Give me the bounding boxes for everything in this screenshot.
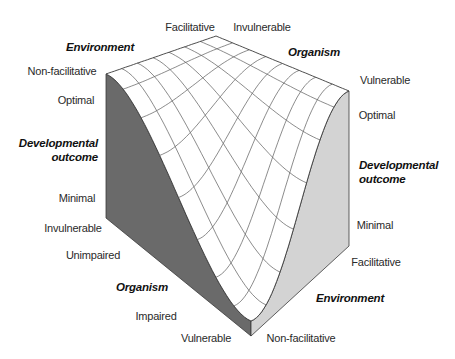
label-environment-facilitative-top: Facilitative	[165, 21, 215, 33]
axis-title-organism-bottom: Organism	[116, 281, 168, 293]
label-organism-invulnerable-top: Invulnerable	[233, 21, 291, 33]
label-organism-invulnerable-bottom: Invulnerable	[44, 222, 102, 234]
label-organism-vulnerable-top: Vulnerable	[360, 74, 410, 86]
axis-title-outcome-right-line2: outcome	[359, 172, 438, 186]
axis-title-outcome-right: Developmental outcome	[359, 158, 438, 186]
axis-title-outcome-left-line2: outcome	[19, 150, 98, 164]
axis-title-environment-bottom: Environment	[316, 292, 384, 304]
label-organism-vulnerable-bottom: Vulnerable	[181, 332, 231, 344]
axis-title-outcome-left: Developmental outcome	[19, 136, 98, 164]
label-outcome-optimal-right: Optimal	[359, 109, 396, 121]
label-organism-impaired: Impaired	[135, 310, 176, 322]
label-environment-facilitative-bottom: Facilitative	[351, 256, 401, 268]
label-environment-non-facilitative-bottom: Non-facilitative	[267, 332, 336, 344]
label-outcome-minimal-right: Minimal	[357, 219, 394, 231]
axis-title-environment-top: Environment	[66, 41, 134, 53]
axis-title-outcome-left-line1: Developmental	[19, 136, 98, 150]
label-outcome-optimal-left: Optimal	[58, 94, 95, 106]
label-environment-non-facilitative-top: Non-facilitative	[28, 65, 97, 77]
label-organism-unimpaired: Unimpaired	[66, 249, 120, 261]
axis-title-organism-top: Organism	[288, 46, 340, 58]
axis-title-outcome-right-line1: Developmental	[359, 158, 438, 172]
label-outcome-minimal-left: Minimal	[59, 192, 96, 204]
developmental-outcome-diagram: Facilitative Invulnerable Environment Or…	[0, 0, 455, 359]
